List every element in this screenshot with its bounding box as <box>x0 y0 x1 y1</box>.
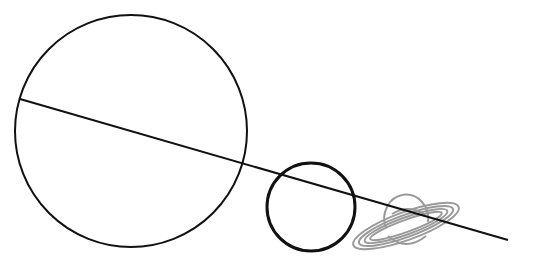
diagram-canvas <box>0 0 533 270</box>
background <box>0 0 533 270</box>
